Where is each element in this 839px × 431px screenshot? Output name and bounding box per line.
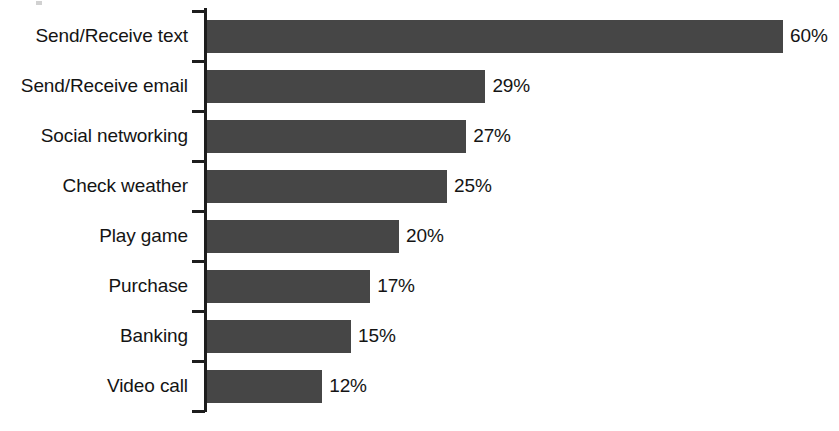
category-label: Play game — [0, 211, 188, 261]
bar-value-label: 20% — [406, 225, 444, 247]
bar — [207, 20, 783, 53]
bar-row: Video call12% — [0, 361, 839, 411]
category-label: Check weather — [0, 161, 188, 211]
plot-area: Send/Receive text60%Send/Receive email29… — [0, 0, 839, 431]
bar-track: 25% — [207, 161, 492, 211]
bar-value-label: 15% — [358, 325, 396, 347]
category-label: Social networking — [0, 111, 188, 161]
bar — [207, 270, 370, 303]
bar-track: 29% — [207, 61, 530, 111]
bar — [207, 320, 351, 353]
category-label: Send/Receive email — [0, 61, 188, 111]
bar-row: Social networking27% — [0, 111, 839, 161]
bar-value-label: 12% — [329, 375, 367, 397]
bar-row: Check weather25% — [0, 161, 839, 211]
bar-row: Banking15% — [0, 311, 839, 361]
scan-artifact — [36, 1, 42, 5]
bar-value-label: 27% — [473, 125, 511, 147]
bar-value-label: 29% — [492, 75, 530, 97]
bar — [207, 220, 399, 253]
bar-track: 17% — [207, 261, 415, 311]
bar-track: 12% — [207, 361, 367, 411]
bar-track: 60% — [207, 11, 828, 61]
bar-track: 20% — [207, 211, 444, 261]
category-label: Send/Receive text — [0, 11, 188, 61]
bar-track: 27% — [207, 111, 511, 161]
bar-chart: Send/Receive text60%Send/Receive email29… — [0, 0, 839, 431]
bar-value-label: 17% — [377, 275, 415, 297]
bar-row: Purchase17% — [0, 261, 839, 311]
bar-row: Send/Receive email29% — [0, 61, 839, 111]
bar-row: Send/Receive text60% — [0, 11, 839, 61]
bar — [207, 70, 485, 103]
bar-value-label: 25% — [454, 175, 492, 197]
bar-value-label: 60% — [790, 25, 828, 47]
category-label: Video call — [0, 361, 188, 411]
bar — [207, 120, 466, 153]
bar-row: Play game20% — [0, 211, 839, 261]
bar-track: 15% — [207, 311, 396, 361]
bar — [207, 370, 322, 403]
bar — [207, 170, 447, 203]
category-label: Purchase — [0, 261, 188, 311]
category-label: Banking — [0, 311, 188, 361]
